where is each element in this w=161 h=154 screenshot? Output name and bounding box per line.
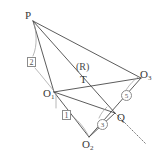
point-label-o3-base: O: [140, 68, 148, 80]
point-label-o2-sub: 2: [90, 144, 94, 152]
point-label-t: T: [80, 74, 87, 85]
point-label-p: P: [25, 10, 31, 21]
point-label-o3: O3: [140, 69, 151, 80]
point-label-o2-base: O: [82, 138, 90, 150]
leader-curve-2: [33, 23, 36, 56]
point-label-r: (R): [76, 62, 89, 72]
callout-circled-5: 5: [121, 90, 132, 101]
callout-circled-3: 3: [97, 119, 108, 130]
point-label-q: Q: [117, 112, 125, 123]
point-label-o1-base: O: [43, 87, 51, 99]
point-label-o3-sub: 3: [148, 74, 152, 82]
callout-boxed-2: 2: [27, 57, 36, 67]
point-label-o2: O2: [82, 139, 93, 150]
segment-p-o1: [33, 21, 54, 92]
segment-o1-o2: [54, 92, 89, 137]
point-label-o1: O1: [43, 88, 54, 99]
geometry-figure: P O1 (R) T O3 Q O2 2 1 3 5: [0, 0, 161, 154]
segment-o2-o3: [89, 78, 141, 137]
callout-boxed-1: 1: [62, 110, 71, 120]
point-label-o1-sub: 1: [51, 93, 55, 101]
